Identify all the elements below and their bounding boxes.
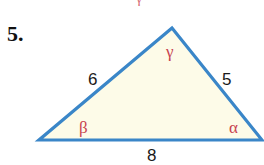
side-label-left: 6 <box>88 70 97 89</box>
cut-off-label: γ <box>135 0 142 6</box>
angle-label-gamma: γ <box>165 42 174 61</box>
angle-label-beta: β <box>79 118 88 137</box>
triangle-figure: γ 6 5 8 γ β α <box>0 0 264 165</box>
angle-label-alpha: α <box>229 118 238 137</box>
side-label-bottom: 8 <box>147 146 156 165</box>
side-label-right: 5 <box>222 70 231 89</box>
